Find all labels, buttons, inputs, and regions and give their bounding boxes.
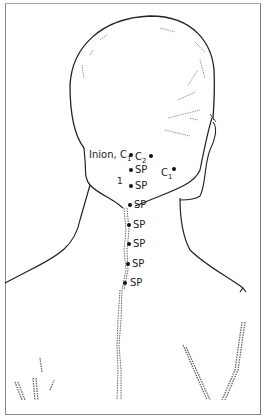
label-sp3: SP (134, 200, 146, 210)
dot-sp5 (127, 242, 131, 246)
dot-sp4 (127, 223, 131, 227)
dot-sp2 (129, 184, 133, 188)
head-neck-outline (0, 0, 267, 420)
dot-sp1 (129, 168, 133, 172)
dot-sp6 (126, 262, 130, 266)
dot-c1-right (172, 167, 176, 171)
label-inion-c1: Inion, C1 (89, 150, 131, 164)
dot-inion (129, 153, 133, 157)
dot-sp7 (123, 281, 127, 285)
label-c1-right: C1 (161, 168, 172, 182)
dot-sp3 (128, 203, 132, 207)
marker-1: 1 (117, 176, 123, 186)
label-sp6: SP (132, 259, 144, 269)
label-sp7: SP (130, 278, 142, 288)
label-sp2: SP (135, 181, 147, 191)
label-sp4: SP (133, 220, 145, 230)
dot-c2 (149, 154, 153, 158)
label-sp1: SP (135, 165, 147, 175)
label-sp5: SP (133, 239, 145, 249)
